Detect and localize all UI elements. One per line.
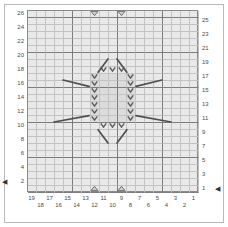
grid-cell [28,158,37,165]
grid-cell [46,60,55,67]
grid-cell [163,67,172,74]
grid-cell [73,25,82,32]
grid-cell [82,165,91,172]
grid-cell [91,109,100,116]
grid-cell [109,123,118,130]
grid-cell [73,172,82,179]
grid-cell [28,144,37,151]
grid-cell [46,109,55,116]
grid-cell [64,88,73,95]
grid-cell [82,88,91,95]
grid-cell [73,116,82,123]
grid-cell [154,158,163,165]
grid-cell [82,95,91,102]
grid-cell [163,74,172,81]
grid-cell [73,130,82,137]
grid-cell [163,186,172,193]
grid-cell [37,109,46,116]
grid-cell [64,39,73,46]
grid-cell [118,53,127,60]
grid-cell [127,102,136,109]
row-label-left: 14 [9,94,24,101]
grid-cell [37,102,46,109]
grid-cell [127,46,136,53]
grid-cell [172,137,181,144]
grid-cell [37,137,46,144]
grid-cell [181,158,190,165]
grid-cell [37,88,46,95]
grid-cell [118,137,127,144]
grid-cell [109,18,118,25]
grid-cell [100,144,109,151]
grid-cell [136,144,145,151]
grid-cell [64,60,73,67]
grid-cell [163,165,172,172]
grid-cell [82,144,91,151]
grid-cell [55,144,64,151]
grid-cell [37,186,46,193]
grid-cell [100,67,109,74]
grid-cell [163,172,172,179]
grid-cell [82,46,91,53]
grid-cell [100,151,109,158]
grid-cell [109,116,118,123]
grid-cell [181,179,190,186]
grid-cell [46,46,55,53]
grid-cell [28,25,37,32]
grid-cell [190,158,199,165]
grid-cell [190,102,199,109]
grid-cell [91,172,100,179]
grid-cell [37,116,46,123]
grid-cell [82,137,91,144]
grid-cell [46,123,55,130]
grid-cell [109,53,118,60]
grid-cell [145,32,154,39]
grid-cell [181,46,190,53]
grid-cell [91,137,100,144]
knitting-chart: 2624222018161412108642 25232119171513119… [0,0,228,227]
row-label-right: 21 [202,45,218,52]
grid-cell [37,172,46,179]
grid-cell [46,74,55,81]
grid-cell [64,11,73,18]
grid-cell [55,172,64,179]
grid-cell [127,123,136,130]
grid-cell [127,53,136,60]
grid-cell [91,81,100,88]
grid-cell [55,137,64,144]
grid-cell [64,74,73,81]
grid-cell [172,151,181,158]
grid-cell [190,123,199,130]
grid-cell [172,116,181,123]
grid-cell [181,172,190,179]
grid-cell [55,123,64,130]
grid-cell [100,172,109,179]
grid-cell [109,144,118,151]
grid-cell [28,95,37,102]
grid-cell [190,18,199,25]
grid-cell [55,88,64,95]
grid-cell [163,18,172,25]
grid-cell [136,102,145,109]
grid-cell [28,165,37,172]
grid-cell [82,32,91,39]
grid-cell [73,88,82,95]
grid-cell [46,88,55,95]
grid-cell [64,95,73,102]
grid-cell [190,109,199,116]
grid-cell [190,88,199,95]
grid-cell [118,74,127,81]
grid-cell [172,74,181,81]
grid-cell [163,46,172,53]
grid-cell [145,179,154,186]
row-label-left: 22 [9,38,24,45]
row-label-left: 20 [9,52,24,59]
grid-cell [136,116,145,123]
grid-cell [109,25,118,32]
grid-cell [100,88,109,95]
grid-cell [73,67,82,74]
grid-cell [91,158,100,165]
grid-cell [172,165,181,172]
column-label: 12 [88,202,102,209]
grid-cell [55,60,64,67]
